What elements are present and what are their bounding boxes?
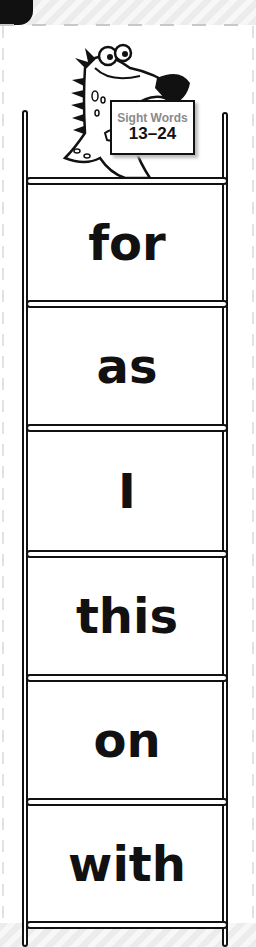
sight-words-sign: Sight Words 13–24 <box>110 100 195 155</box>
sight-word: for <box>88 215 166 271</box>
ladder-rung <box>26 798 228 806</box>
ladder-word-slot: as <box>29 308 225 424</box>
sight-word: as <box>97 338 158 394</box>
ladder-rail-left <box>22 110 28 947</box>
cut-line-left <box>2 26 4 923</box>
ladder-rung <box>26 177 228 185</box>
cut-line-right <box>252 26 254 923</box>
ladder-word-slot: I <box>29 432 225 550</box>
ladder-rung <box>26 300 228 308</box>
cut-line-top <box>0 24 256 26</box>
ladder-rung <box>26 674 228 682</box>
sight-word: with <box>68 836 186 892</box>
ladder-rung <box>26 921 228 929</box>
ladder-word-slot: with <box>29 806 225 921</box>
ladder-rung <box>26 424 228 432</box>
sight-word: on <box>93 712 160 768</box>
ladder-rung <box>26 550 228 558</box>
page-corner-tab <box>0 0 33 25</box>
ladder-word-slot: for <box>29 185 225 300</box>
sign-range: 13–24 <box>129 125 176 143</box>
ladder-word-slot: this <box>29 558 225 674</box>
sight-word: this <box>76 588 178 644</box>
ladder-word-slot: on <box>29 682 225 798</box>
top-header-band <box>0 0 256 25</box>
sight-word: I <box>118 463 136 519</box>
